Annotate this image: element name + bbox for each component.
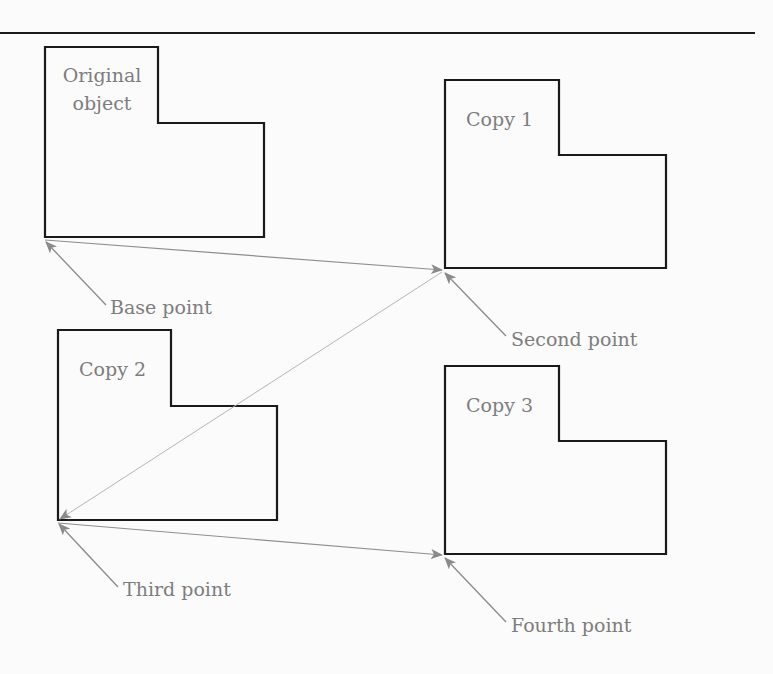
diagram-canvas: Original object Copy 1 Copy 2 Copy 3 Bas… [0,0,773,674]
copy-3-object: Copy 3 [445,366,666,554]
fourth-point-label: Fourth point [511,614,632,636]
original-object: Original object [45,47,264,237]
path-base-to-second [45,240,442,270]
copy-1-object: Copy 1 [445,80,666,268]
original-object-label-line2: object [72,92,131,114]
original-object-label-line1: Original [63,64,142,86]
second-point-callout: Second point [445,273,638,350]
diagram-svg: Original object Copy 1 Copy 2 Copy 3 Bas… [0,0,773,674]
fourth-point-callout: Fourth point [445,558,632,636]
third-point-label: Third point [123,578,231,600]
copy-3-label: Copy 3 [466,394,533,416]
copy-2-object: Copy 2 [58,330,277,520]
second-point-label: Second point [511,328,638,350]
copy-2-label: Copy 2 [79,358,146,380]
base-point-callout: Base point [46,242,212,318]
base-point-label: Base point [110,296,212,318]
path-third-to-fourth [58,523,442,555]
copy-1-label: Copy 1 [466,108,533,130]
